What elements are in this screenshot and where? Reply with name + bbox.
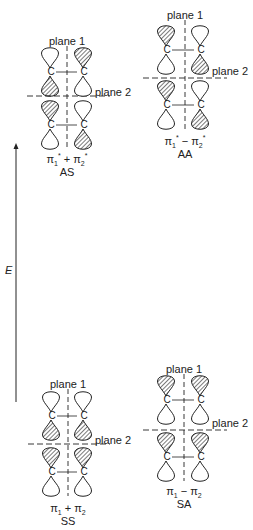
plane-2-label: plane 2: [212, 417, 248, 429]
symmetry-label: SS: [61, 515, 76, 527]
carbon-atom-label: C: [47, 67, 54, 77]
p-orbital-lobe: [192, 461, 209, 481]
p-orbital-lobe: [75, 476, 92, 496]
p-orbital-lobe: [75, 129, 92, 149]
plane-2-label: plane 2: [95, 86, 131, 98]
carbon-atom-label: C: [197, 395, 204, 405]
p-orbital-lobe: [158, 81, 175, 101]
orbital-combination-label: π1 − π2: [166, 485, 202, 497]
p-orbital-lobe: [75, 101, 92, 121]
orbital-combination-label: π1* + π2*: [46, 153, 87, 165]
carbon-atom-label: C: [163, 45, 170, 55]
p-orbital-lobe: [42, 101, 59, 121]
carbon-atom-label: C: [163, 100, 170, 110]
p-orbital-lobe: [192, 433, 209, 453]
p-orbital-lobe: [75, 448, 92, 468]
carbon-atom-label: C: [197, 452, 204, 462]
arrow-up-icon: [14, 143, 19, 149]
plane-1-label: plane 1: [166, 363, 202, 375]
carbon-atom-label: C: [47, 120, 54, 130]
carbon-atom-label: C: [163, 452, 170, 462]
carbon-atom-label: C: [80, 467, 87, 477]
p-orbital-lobe: [42, 76, 59, 96]
p-orbital-lobe: [192, 376, 209, 396]
p-orbital-lobe: [158, 54, 175, 74]
carbon-atom-label: C: [48, 467, 55, 477]
energy-axis-label: E: [5, 264, 12, 276]
orbital-combination-label: π1 + π2: [50, 502, 86, 514]
p-orbital-lobe: [192, 54, 209, 74]
p-orbital-lobe: [158, 404, 175, 424]
plane-1-label: plane 1: [50, 378, 86, 390]
p-orbital-lobe: [192, 26, 209, 46]
p-orbital-lobe: [158, 461, 175, 481]
p-orbital-lobe: [192, 109, 209, 129]
carbon-atom-label: C: [80, 120, 87, 130]
p-orbital-lobe: [192, 404, 209, 424]
symmetry-label: SA: [177, 498, 192, 510]
p-orbital-lobe: [43, 448, 60, 468]
orbital-combination-label: π1* − π2*: [164, 135, 205, 147]
p-orbital-lobe: [158, 376, 175, 396]
carbon-atom-label: C: [48, 411, 55, 421]
p-orbital-lobe: [158, 26, 175, 46]
plane-2-label: plane 2: [212, 65, 248, 77]
p-orbital-lobe: [192, 81, 209, 101]
carbon-atom-label: C: [80, 67, 87, 77]
p-orbital-lobe: [43, 476, 60, 496]
p-orbital-lobe: [75, 420, 92, 440]
p-orbital-lobe: [43, 392, 60, 412]
p-orbital-lobe: [43, 420, 60, 440]
p-orbital-lobe: [75, 76, 92, 96]
plane-1-label: plane 1: [49, 35, 85, 47]
carbon-atom-label: C: [197, 45, 204, 55]
p-orbital-lobe: [158, 109, 175, 129]
carbon-atom-label: C: [197, 100, 204, 110]
p-orbital-lobe: [42, 48, 59, 68]
symmetry-label: AA: [178, 148, 193, 160]
plane-2-label: plane 2: [95, 434, 131, 446]
p-orbital-lobe: [42, 129, 59, 149]
p-orbital-lobe: [75, 392, 92, 412]
carbon-atom-label: C: [80, 411, 87, 421]
orbital-diagram-canvas: [0, 0, 253, 530]
p-orbital-lobe: [75, 48, 92, 68]
energy-axis: [14, 143, 19, 402]
symmetry-label: AS: [60, 166, 75, 178]
p-orbital-lobe: [158, 433, 175, 453]
carbon-atom-label: C: [163, 395, 170, 405]
plane-1-label: plane 1: [167, 9, 203, 21]
